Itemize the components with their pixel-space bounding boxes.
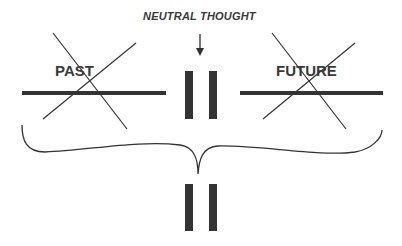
past-label: PAST	[55, 62, 94, 79]
future-cross-out	[263, 33, 355, 129]
arrow-down-icon	[196, 34, 204, 56]
neutral-thought-label: NEUTRAL THOUGHT	[143, 10, 256, 22]
past-cross-out	[43, 33, 136, 129]
pause-bar-bottom-right	[209, 184, 217, 231]
pause-bar-top-left	[185, 71, 193, 119]
diagram-canvas	[0, 0, 402, 246]
pause-bar-bottom-left	[185, 184, 193, 231]
curly-brace	[22, 125, 382, 174]
future-label: FUTURE	[276, 62, 337, 79]
pause-bar-top-right	[209, 71, 217, 119]
